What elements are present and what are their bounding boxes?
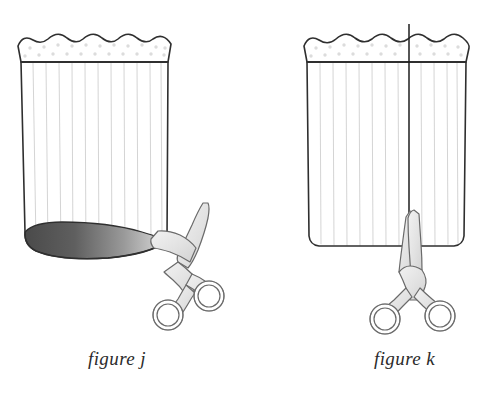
illustration-root: figure j figure k — [0, 0, 490, 402]
scissors-ring-right-j — [194, 281, 224, 311]
scissors-ring-right-k — [425, 301, 455, 331]
panel-j-group — [18, 34, 224, 330]
scissors-ring-left-k — [370, 304, 400, 334]
figure-illustration-svg — [0, 0, 490, 402]
scissors-ring-left-j — [153, 300, 183, 330]
panel-k-group — [304, 24, 469, 334]
scalloped-waistband-j — [18, 34, 171, 62]
skirt-body-k — [307, 62, 466, 246]
